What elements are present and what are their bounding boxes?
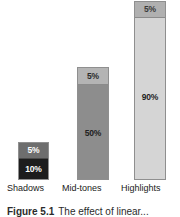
bar-shadows-cap-segment: 5% [19,143,48,159]
x-axis-label-shadows: Shadows [7,182,44,195]
bar-shadows-main-segment: 10% [19,159,48,179]
bar-shadows: 5% 10% [18,142,49,180]
x-axis-labels: Shadows Mid-tones Highlights [0,182,180,196]
chart-plot-area: 5% 10% 5% 50% 5% 90% [0,0,180,181]
bar-midtones-cap-segment: 5% [78,68,108,85]
figure-caption-number: Figure 5.1 [7,206,54,217]
figure-container: 5% 10% 5% 50% 5% 90% Shadows Mid-tones H… [0,0,180,217]
bar-midtones-main-segment: 50% [78,85,108,179]
figure-caption-text: The effect of linear... [58,206,148,217]
bar-highlights-cap-segment: 5% [135,2,165,18]
x-axis-label-highlights: Highlights [121,182,161,195]
bar-midtones: 5% 50% [77,67,109,180]
x-axis-label-midtones: Mid-tones [62,182,102,195]
bar-highlights-main-segment: 90% [135,18,165,179]
figure-caption: Figure 5.1The effect of linear... [7,205,180,217]
bar-highlights: 5% 90% [134,1,166,180]
